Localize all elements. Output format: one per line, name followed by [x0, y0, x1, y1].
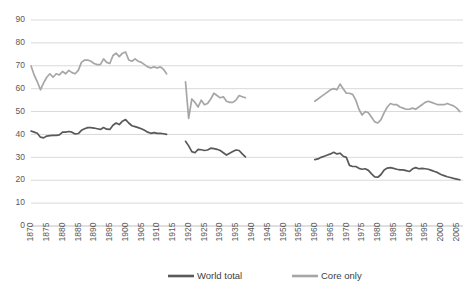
x-tick-label: 1870: [25, 222, 35, 241]
series-line-core-only-1919-1938: [186, 82, 246, 119]
series-line-world-total-1870-1913: [31, 120, 167, 138]
x-tick-label: 1910: [151, 222, 161, 241]
y-tick-label: 50: [16, 106, 26, 116]
x-tick-label: 1935: [230, 222, 240, 241]
x-tick-label: 1880: [57, 222, 67, 241]
x-tick-label: 1940: [246, 222, 256, 241]
legend-label-world-total: World total: [197, 270, 242, 281]
y-tick-label: 40: [16, 129, 26, 139]
line-chart: 0102030405060708090 18701875188018851890…: [0, 0, 476, 295]
x-tick-label: 1950: [278, 222, 288, 241]
x-tick-label: 1990: [404, 222, 414, 241]
x-tick-label: 1980: [372, 222, 382, 241]
x-tick-label: 1995: [419, 222, 429, 241]
x-tick-label: 1960: [309, 222, 319, 241]
series-line-world-total-1919-1938: [186, 141, 246, 157]
x-tick-label: 2000: [435, 222, 445, 241]
gridlines-group: [31, 20, 463, 226]
x-tick-label: 2005: [451, 222, 461, 241]
x-tick-label: 1915: [167, 222, 177, 241]
x-tick-label: 1885: [73, 222, 83, 241]
x-tick-label: 1875: [41, 222, 51, 241]
x-axis-tick-labels: 1870187518801885189018951900190519101915…: [25, 222, 461, 241]
x-tick-label: 1970: [341, 222, 351, 241]
y-tick-label: 10: [16, 197, 26, 207]
y-tick-label: 80: [16, 37, 26, 47]
x-tick-label: 1985: [388, 222, 398, 241]
y-axis-tick-labels: 0102030405060708090: [16, 14, 26, 230]
x-tick-label: 1925: [199, 222, 209, 241]
x-tick-label: 1905: [136, 222, 146, 241]
x-tick-label: 1920: [183, 222, 193, 241]
chart-legend: World totalCore only: [168, 270, 362, 281]
y-tick-label: 90: [16, 14, 26, 24]
y-tick-label: 20: [16, 174, 26, 184]
x-tick-label: 1945: [262, 222, 272, 241]
series-line-core-only-1870-1913: [31, 52, 167, 90]
series-line-core-only-1960-2006: [315, 84, 460, 123]
x-tick-label: 1955: [293, 222, 303, 241]
chart-canvas: 0102030405060708090 18701875188018851890…: [0, 0, 476, 295]
x-tick-label: 1895: [104, 222, 114, 241]
x-tick-label: 1890: [88, 222, 98, 241]
x-tick-label: 1900: [120, 222, 130, 241]
x-tick-label: 1965: [325, 222, 335, 241]
series-line-world-total-1960-2006: [315, 152, 460, 179]
y-tick-label: 70: [16, 60, 26, 70]
legend-label-core-only: Core only: [321, 270, 362, 281]
y-tick-label: 60: [16, 83, 26, 93]
series-lines-group: [31, 52, 460, 180]
x-tick-label: 1930: [214, 222, 224, 241]
y-tick-label: 30: [16, 152, 26, 162]
x-tick-label: 1975: [356, 222, 366, 241]
